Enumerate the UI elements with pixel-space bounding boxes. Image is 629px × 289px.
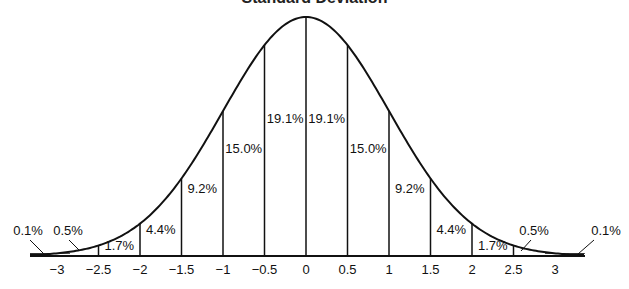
segment-percent-label: 19.1%	[267, 111, 304, 126]
segment-percent-label: 0.5%	[519, 223, 549, 238]
segment-percent-label: 0.1%	[13, 223, 43, 238]
x-tick-label: −1	[216, 262, 231, 277]
normal-distribution-chart: −3−2.5−2−1.5−1−0.500.511.522.531.7%4.4%9…	[0, 0, 629, 289]
x-tick-label: 0	[302, 262, 309, 277]
segment-percent-label: 1.7%	[104, 238, 134, 253]
x-tick-label: 1.5	[421, 262, 439, 277]
leader-line	[30, 240, 44, 254]
segment-percent-label: 4.4%	[146, 222, 176, 237]
segment-percent-label: 15.0%	[225, 141, 262, 156]
x-tick-label: −0.5	[252, 262, 278, 277]
segment-percent-label: 0.1%	[591, 223, 621, 238]
gaussian-curve	[30, 17, 584, 255]
x-tick-label: 1	[385, 262, 392, 277]
segment-percent-label: 4.4%	[436, 222, 466, 237]
x-tick-label: 3	[551, 262, 558, 277]
leader-line	[69, 240, 80, 251]
segment-percent-label: 9.2%	[395, 181, 425, 196]
x-tick-label: 0.5	[338, 262, 356, 277]
x-tick-label: 2.5	[504, 262, 522, 277]
segment-percent-label: 19.1%	[308, 111, 345, 126]
segment-percent-label: 15.0%	[350, 141, 387, 156]
segment-percent-label: 1.7%	[478, 238, 508, 253]
leader-line	[578, 240, 594, 254]
segment-percent-label: 9.2%	[187, 181, 217, 196]
x-tick-label: −1.5	[169, 262, 195, 277]
segment-percent-label: 0.5%	[53, 223, 83, 238]
x-tick-label: −2	[133, 262, 148, 277]
x-tick-label: −3	[50, 262, 65, 277]
x-tick-label: 2	[468, 262, 475, 277]
x-tick-label: −2.5	[86, 262, 112, 277]
